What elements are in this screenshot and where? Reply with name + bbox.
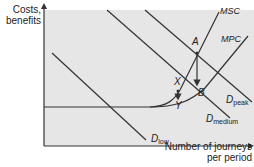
y-axis-label-line1: Costs, bbox=[0, 4, 41, 15]
point-b-label: B bbox=[198, 88, 205, 98]
point-a-dot bbox=[196, 52, 199, 55]
d-peak-sub: peak bbox=[233, 99, 248, 106]
y-axis-label: Costs, benefits bbox=[0, 4, 41, 26]
mpc-label: MPC bbox=[221, 34, 241, 44]
d-low-label: Dlow bbox=[151, 134, 169, 147]
point-a-label: A bbox=[192, 37, 199, 47]
d-medium-label: Dmedium bbox=[206, 114, 238, 127]
d-peak-label: Dpeak bbox=[226, 95, 248, 108]
msc-label: MSC bbox=[220, 6, 240, 16]
d-medium-sub: medium bbox=[213, 118, 238, 125]
point-x-label: X bbox=[174, 77, 181, 87]
point-y-label: Y bbox=[175, 101, 182, 111]
d-low-sub: low bbox=[158, 138, 169, 145]
point-x-dot bbox=[177, 90, 180, 93]
x-axis-label-line2: per period bbox=[140, 152, 252, 163]
y-axis-arrow-icon bbox=[41, 3, 47, 9]
y-axis-label-line2: benefits bbox=[0, 15, 41, 26]
